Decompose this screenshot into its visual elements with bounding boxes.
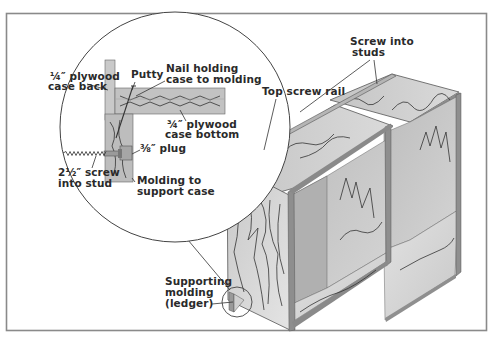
label-screw-line2: into stud <box>58 177 112 189</box>
label-case-bottom-line2: case bottom <box>165 128 239 140</box>
label-nail-line2: case to molding <box>166 73 262 85</box>
label-ledger-line3: (ledger) <box>165 297 213 309</box>
label-molding-line2: support case <box>137 185 215 197</box>
label-screw-studs-line2: studs <box>352 46 385 58</box>
detail-callout: ¼″ plywood case back Putty Nail holding … <box>48 12 290 242</box>
label-case-back-line2: case back <box>48 80 108 92</box>
label-plug: ⅜″ plug <box>140 142 186 154</box>
cabinet-installation-diagram: ¼″ plywood case back Putty Nail holding … <box>0 0 494 342</box>
label-putty: Putty <box>131 68 164 80</box>
label-top-screw-rail: Top screw rail <box>262 85 345 97</box>
